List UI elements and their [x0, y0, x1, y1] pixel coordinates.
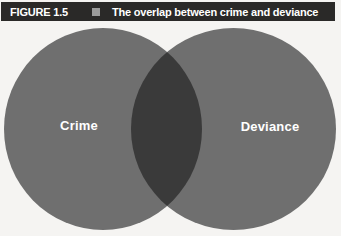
deviance-label: Deviance	[241, 119, 300, 134]
crime-label: Crime	[60, 118, 98, 133]
figure-header: FIGURE 1.5 The overlap between crime and…	[1, 2, 335, 21]
figure-panel: FIGURE 1.5 The overlap between crime and…	[0, 0, 341, 236]
square-bullet-icon	[92, 8, 100, 16]
figure-label: FIGURE 1.5	[10, 6, 68, 18]
figure-title: The overlap between crime and deviance	[112, 6, 318, 18]
